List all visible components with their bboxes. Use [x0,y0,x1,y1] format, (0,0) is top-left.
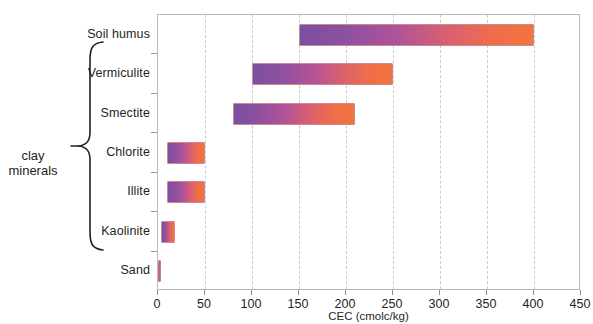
bar-vermiculite [252,63,393,85]
x-axis-tick-200 [345,290,346,295]
gridline-400 [534,15,535,289]
group-label-line2: minerals [2,163,64,178]
x-axis-tick-label-300: 300 [429,297,450,311]
x-axis-tick-label-450: 450 [570,297,591,311]
bar-soil-humus [299,24,534,46]
chart-figure: Soil humusVermiculiteSmectiteChloriteIll… [0,0,593,324]
y-axis-tick [151,93,157,94]
x-axis-title: CEC (cmolc/kg) [157,310,580,324]
y-axis-label-soil-humus: Soil humus [7,27,157,41]
group-label-line1: clay [2,148,64,163]
x-axis-tick-250 [392,290,393,295]
x-axis-tick-350 [486,290,487,295]
x-axis-tick-0 [157,290,158,295]
bar-sand [158,260,161,282]
x-axis-tick-400 [533,290,534,295]
x-axis-tick-50 [204,290,205,295]
y-axis-tick [151,172,157,173]
x-axis-tick-450 [580,290,581,295]
y-axis-tick [151,53,157,54]
bar-chlorite [167,142,205,164]
gridline-50 [205,15,206,289]
x-axis-tick-label-250: 250 [382,297,403,311]
y-axis-tick [151,251,157,252]
x-axis-tick-label-200: 200 [335,297,356,311]
x-axis-tick-label-100: 100 [241,297,262,311]
x-axis-tick-150 [298,290,299,295]
gridline-350 [487,15,488,289]
plot-area [157,14,580,290]
x-axis-tick-100 [251,290,252,295]
y-axis-tick [151,211,157,212]
gridline-300 [440,15,441,289]
gridline-100 [252,15,253,289]
x-axis-tick-label-50: 50 [197,297,211,311]
x-axis-tick-label-150: 150 [288,297,309,311]
y-axis-label-sand: Sand [7,263,157,277]
x-axis-tick-label-400: 400 [523,297,544,311]
x-axis-tick-label-0: 0 [154,297,161,311]
bar-illite [167,181,205,203]
gridline-250 [393,15,394,289]
gridline-150 [299,15,300,289]
x-axis-tick-300 [439,290,440,295]
gridline-200 [346,15,347,289]
x-axis-tick-label-350: 350 [476,297,497,311]
bar-smectite [233,103,355,125]
clay-minerals-group-label: clay minerals [2,148,64,178]
y-axis-tick [151,132,157,133]
bar-kaolinite [161,221,175,243]
clay-minerals-brace-icon [62,40,104,252]
